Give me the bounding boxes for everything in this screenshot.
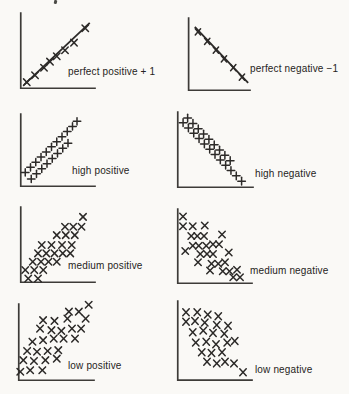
x-mark — [51, 250, 57, 257]
x-mark — [62, 223, 68, 230]
plus-mark — [43, 148, 51, 155]
data-points — [22, 214, 86, 282]
correlation-figure-page: perfect positive + 1perfect negative −1h… — [0, 0, 349, 394]
x-mark — [204, 358, 210, 365]
x-mark — [31, 267, 37, 274]
x-mark — [80, 214, 86, 221]
x-mark — [194, 309, 200, 316]
x-mark — [24, 348, 31, 355]
x-mark — [180, 223, 186, 229]
x-mark — [69, 325, 76, 332]
x-mark — [222, 358, 228, 365]
x-mark — [40, 267, 46, 274]
x-mark — [210, 241, 216, 247]
x-mark — [197, 251, 203, 257]
x-mark — [50, 335, 57, 342]
plot-caption-medium-positive: medium positive — [68, 261, 143, 271]
x-mark — [183, 318, 189, 325]
plot-caption-high-negative: high negative — [255, 169, 316, 179]
x-mark — [48, 327, 55, 334]
x-mark — [225, 322, 231, 329]
plus-mark — [222, 161, 230, 169]
plot-canvas-medium-positive — [20, 207, 95, 283]
plus-mark — [37, 153, 45, 160]
plus-mark — [201, 140, 209, 148]
plot-canvas-low-negative — [177, 301, 252, 381]
x-mark — [24, 79, 30, 86]
x-mark — [202, 222, 208, 228]
x-mark — [63, 232, 69, 239]
x-mark — [232, 338, 238, 345]
x-mark — [205, 311, 211, 318]
plus-mark — [69, 123, 77, 130]
x-mark — [216, 241, 222, 247]
plus-mark — [58, 133, 66, 140]
plot-canvas-high-negative — [177, 112, 253, 188]
x-mark — [190, 329, 196, 336]
x-mark — [45, 258, 51, 265]
plus-mark — [184, 114, 192, 122]
x-mark — [44, 348, 51, 355]
plot-high-negative — [177, 112, 253, 188]
x-mark — [29, 338, 36, 345]
plus-mark — [64, 128, 72, 135]
x-mark — [20, 357, 27, 364]
plus-mark — [221, 152, 229, 160]
x-mark — [193, 339, 199, 346]
x-mark — [67, 250, 73, 257]
plot-caption-high-positive: high positive — [72, 166, 130, 176]
plus-mark — [205, 136, 213, 144]
plus-mark — [48, 143, 56, 150]
plus-mark — [33, 170, 41, 177]
plus-mark — [194, 125, 202, 133]
plot-perfect-negative — [188, 18, 250, 91]
x-mark — [40, 337, 47, 344]
x-mark — [199, 349, 205, 356]
x-mark — [22, 267, 28, 274]
x-mark — [42, 357, 49, 364]
x-mark — [78, 223, 84, 230]
x-mark — [231, 65, 236, 71]
x-mark — [219, 231, 225, 237]
plot-perfect-positive — [20, 13, 95, 89]
plot-canvas-perfect-negative — [188, 18, 250, 91]
x-mark — [39, 367, 46, 374]
x-mark — [222, 259, 228, 265]
x-mark — [214, 360, 220, 367]
x-mark — [208, 261, 214, 267]
plot-canvas-medium-negative — [177, 209, 252, 284]
plus-mark — [185, 124, 193, 132]
x-mark — [188, 233, 194, 239]
data-points — [179, 114, 245, 185]
x-mark — [30, 258, 36, 265]
data-points — [180, 213, 243, 280]
x-mark — [203, 338, 209, 345]
x-mark — [70, 223, 76, 230]
x-mark — [62, 47, 68, 54]
page-edge-artifact — [54, 0, 58, 4]
x-mark — [192, 318, 198, 325]
x-mark — [210, 251, 216, 257]
x-mark — [208, 350, 214, 357]
x-mark — [59, 242, 65, 249]
x-mark — [58, 328, 65, 335]
x-mark — [66, 308, 73, 315]
x-mark — [60, 335, 67, 342]
plus-mark — [200, 130, 208, 138]
plus-mark — [64, 140, 72, 147]
plus-mark — [232, 172, 240, 180]
x-mark — [221, 330, 227, 337]
x-mark — [200, 327, 206, 334]
x-mark — [190, 223, 196, 229]
plus-mark — [54, 150, 62, 157]
plus-mark — [43, 160, 51, 167]
x-mark — [215, 261, 221, 267]
x-mark — [78, 325, 85, 332]
x-mark — [32, 72, 38, 79]
x-mark — [34, 348, 41, 355]
plus-mark — [59, 145, 67, 152]
x-mark — [207, 267, 213, 273]
plot-caption-perfect-positive: perfect positive + 1 — [68, 67, 155, 77]
x-mark — [240, 369, 246, 376]
x-mark — [195, 259, 201, 265]
